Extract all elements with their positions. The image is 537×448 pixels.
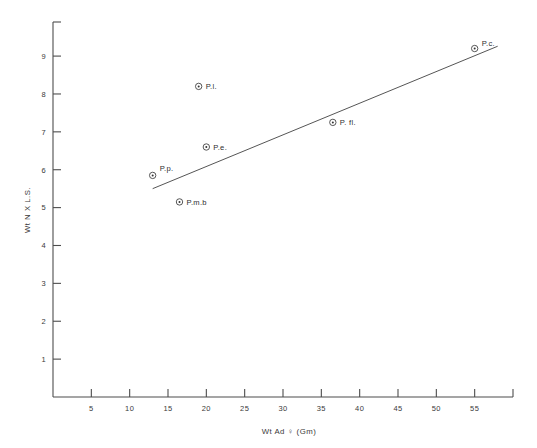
x-tick-label: 25 [240,404,249,413]
data-point: P.p. [149,164,173,178]
point-marker-dot [205,146,207,148]
data-point: P.c. [471,39,495,52]
x-tick-label: 20 [202,404,211,413]
x-tick-label: 40 [355,404,364,413]
scatter-plot-figure: 123456789 510152025303540455055 P.p.P.m.… [0,0,537,448]
x-tick-label: 5 [89,404,94,413]
data-point: P.e. [203,143,227,152]
regression-line [153,46,498,188]
point-label: P.l. [206,82,217,91]
y-tick-label: 5 [41,203,46,212]
y-tick-label: 6 [41,166,46,175]
y-tick-label: 7 [41,128,46,137]
x-tick-label: 45 [393,404,402,413]
x-tick-label: 10 [125,404,134,413]
point-marker-dot [152,174,154,176]
x-tick-label: 55 [470,404,479,413]
y-tick-label: 2 [41,317,46,326]
point-label: P.p. [160,164,174,173]
point-label: P.e. [213,143,227,152]
y-axis-title-group: Wt N X L.S. [23,187,32,233]
data-points-group: P.p.P.m.bP.l.P.e.P. fl.P.c. [149,39,495,207]
point-label: P.m.b [187,198,207,207]
data-point: P. fl. [330,118,356,127]
data-point: P.l. [195,82,216,91]
point-marker-dot [179,201,181,203]
y-tick-label: 4 [41,241,46,250]
y-tick-label: 3 [41,279,46,288]
y-tick-label: 1 [41,355,46,364]
y-tick-label: 8 [41,90,46,99]
trend-line-group [153,46,498,188]
plot-canvas: 123456789 510152025303540455055 P.p.P.m.… [0,0,537,448]
point-marker-dot [332,121,334,123]
y-axis: 123456789 [41,22,61,397]
x-tick-group: 510152025303540455055 [89,389,479,413]
point-label: P.c. [482,39,495,48]
x-tick-label: 15 [163,404,172,413]
x-tick-label: 50 [432,404,441,413]
x-axis: 510152025303540455055 [53,389,513,413]
x-tick-label: 35 [317,404,326,413]
y-axis-title: Wt N X L.S. [23,187,32,233]
y-tick-group: 123456789 [41,52,61,364]
point-label: P. fl. [340,118,356,127]
x-axis-title: Wt Ad ♀ (Gm) [262,427,317,436]
point-marker-dot [198,85,200,87]
data-point: P.m.b [176,198,207,207]
point-marker-dot [474,48,476,50]
x-tick-label: 30 [278,404,287,413]
y-tick-label: 9 [41,52,46,61]
